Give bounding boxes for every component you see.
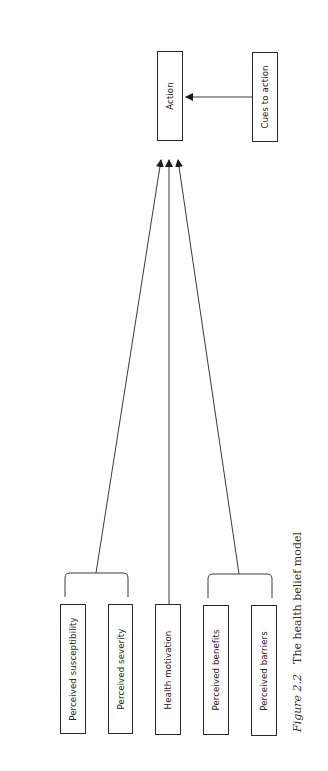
perceived-susceptibility-label: Perceived susceptibility <box>68 617 78 721</box>
arrow-benefits-barriers-to-action <box>178 160 239 574</box>
perceived-severity-label: Perceived severity <box>116 629 126 710</box>
cues-to-action-box: Cues to action <box>252 52 278 142</box>
perceived-benefits-label: Perceived benefits <box>211 629 221 710</box>
perceived-barriers-label: Perceived barriers <box>259 631 269 711</box>
perceived-benefits-box: Perceived benefits <box>203 605 229 735</box>
perceived-barriers-box: Perceived barriers <box>251 605 277 736</box>
bracket-susceptibility-severity <box>65 573 128 597</box>
perceived-susceptibility-box: Perceived susceptibility <box>60 604 86 734</box>
action-label: Action <box>165 82 175 110</box>
figure-number: Figure 2.2 <box>291 674 304 732</box>
cues-to-action-label: Cues to action <box>260 65 270 128</box>
bracket-benefits-barriers <box>208 574 272 598</box>
figure-caption: Figure 2.2The health belief model <box>291 532 304 732</box>
health-belief-model-diagram: Action Cues to action Perceived suscepti… <box>0 0 328 771</box>
arrow-threat-to-action <box>96 160 161 573</box>
figure-title: The health belief model <box>291 532 304 664</box>
health-motivation-box: Health motivation <box>155 604 181 735</box>
health-motivation-label: Health motivation <box>163 630 173 709</box>
perceived-severity-box: Perceived severity <box>108 604 133 734</box>
action-box: Action <box>157 51 183 141</box>
